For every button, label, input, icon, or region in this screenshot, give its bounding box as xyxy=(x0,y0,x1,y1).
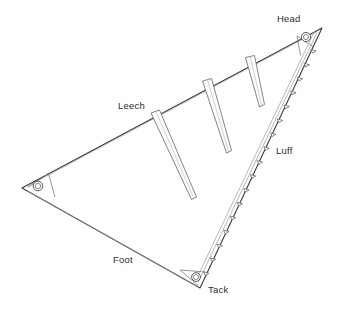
label-luff: Luff xyxy=(276,146,292,156)
label-foot: Foot xyxy=(113,255,133,265)
tack-grommet xyxy=(192,273,201,282)
head-grommet-inner xyxy=(303,34,308,39)
sail-diagram: Head Leech Luff Foot Tack xyxy=(0,0,340,314)
label-leech: Leech xyxy=(118,101,145,111)
tack-grommet-inner xyxy=(194,275,199,280)
head-grommet xyxy=(301,32,310,41)
clew-grommet-inner xyxy=(35,183,40,188)
luff-slide xyxy=(304,63,309,67)
luff-slide xyxy=(311,50,316,54)
clew-grommet xyxy=(33,181,43,191)
label-tack: Tack xyxy=(208,285,228,295)
luff-slide xyxy=(297,77,302,81)
label-head: Head xyxy=(277,14,301,24)
sail-illustration xyxy=(0,0,340,314)
